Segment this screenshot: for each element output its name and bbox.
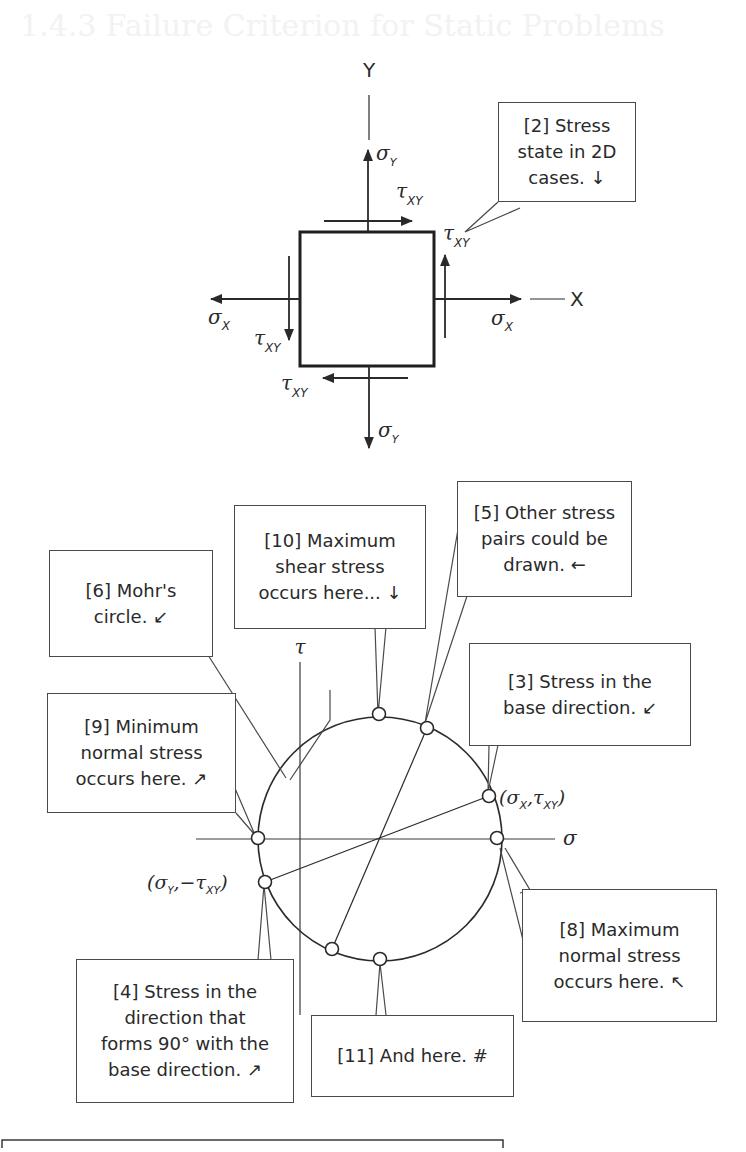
sigma-y-bottom-label: σY <box>378 418 400 446</box>
callout-11-and-here: [11] And here. # <box>311 1015 514 1097</box>
callout-10-pointer <box>375 627 386 715</box>
base-stress-point <box>483 790 496 803</box>
stress-element-square <box>300 232 434 366</box>
callout-2-pointer <box>465 202 520 232</box>
sigma-x-right-label: σX <box>491 306 514 334</box>
min-normal-stress-point <box>252 832 265 845</box>
perpendicular-stress-point <box>259 876 272 889</box>
tau-xy-bottom-label: τXY <box>281 371 309 400</box>
sigma-y-top-label: σY <box>376 141 398 169</box>
x-axis-label: X <box>570 287 584 311</box>
max-normal-stress-point <box>491 832 504 845</box>
y-axis-label: Y <box>362 58 376 82</box>
callout-11-pointer <box>376 963 386 1015</box>
tau-xy-right-label: τXY <box>443 221 471 250</box>
max-shear-point-top <box>373 708 386 721</box>
other-stress-point-opposite <box>326 943 339 956</box>
callout-6-mohrs-circle: [6] Mohr's circle. ↙ <box>49 550 213 657</box>
callout-5-other-pairs: [5] Other stress pairs could be drawn. ← <box>457 481 632 597</box>
callout-4-perpendicular-direction: [4] Stress in the direction that forms 9… <box>76 959 294 1103</box>
tau-axis-label: τ <box>294 635 306 659</box>
other-stress-point <box>421 722 434 735</box>
callout-10-max-shear: [10] Maximum shear stress occurs here...… <box>234 505 426 629</box>
sigma-axis-label: σ <box>563 826 578 850</box>
tau-xy-left-label: τXY <box>254 326 282 355</box>
tau-xy-top-label: τXY <box>396 179 424 208</box>
callout-6-pointer <box>290 690 330 780</box>
callout-4-pointer <box>258 885 271 960</box>
callout-8-pointer <box>505 848 530 893</box>
callout-3-pointer <box>488 745 498 792</box>
callout-8-pointer-2 <box>500 848 523 940</box>
bottom-frame-divider <box>2 1140 503 1148</box>
callout-9-pointer <box>234 786 255 835</box>
sigma-x-left-label: σX <box>208 305 231 333</box>
callout-8-max-normal: [8] Maximum normal stress occurs here. ↖ <box>522 889 717 1022</box>
callout-2-stress-state: [2] Stress state in 2D cases. ↓ <box>498 102 636 202</box>
callout-3-base-direction: [3] Stress in the base direction. ↙ <box>469 643 691 746</box>
point-sigma-x-tau-xy-label: (σX,τXY) <box>499 786 565 812</box>
max-shear-point-bottom <box>374 953 387 966</box>
point-sigma-y-neg-tau-xy-label: (σY,−τXY) <box>147 871 228 897</box>
callout-9-min-normal: [9] Minimum normal stress occurs here. ↗ <box>47 693 236 813</box>
